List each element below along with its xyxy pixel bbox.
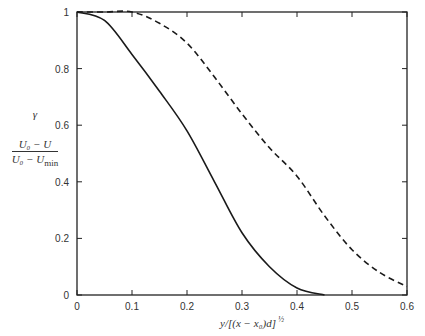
- x-tick-label: 0.5: [345, 301, 359, 312]
- y-label-fraction: U₀ − U U₀ − Umin: [12, 138, 59, 168]
- x-tick-label: 0.1: [125, 301, 139, 312]
- x-tick-label: 0.3: [235, 301, 249, 312]
- x-tick-label: 0.4: [290, 301, 304, 312]
- y-label-gamma: γ: [4, 108, 66, 120]
- y-tick-label: 0: [63, 290, 69, 301]
- y-tick-label: 0.4: [55, 177, 69, 188]
- fraction-denominator: U₀ − Umin: [12, 152, 59, 168]
- plot-frame: [77, 12, 407, 295]
- denominator-main: U₀ − U: [12, 153, 45, 165]
- x-tick-label: 0.2: [180, 301, 194, 312]
- x-tick-label: 0.6: [400, 301, 414, 312]
- x-tick-label: 0: [74, 301, 80, 312]
- y-tick-label: 0.8: [55, 64, 69, 75]
- y-tick-label: 1: [63, 7, 69, 18]
- fraction-numerator: U₀ − U: [12, 138, 59, 152]
- y-axis-label: γ U₀ − U U₀ − Umin: [4, 108, 66, 168]
- solid-curve-gamma: [77, 12, 325, 295]
- denominator-sub: min: [44, 158, 58, 168]
- x-axis-label: y/[(x − x₀)d] ½: [219, 315, 284, 330]
- dashed-curve-velocity: [77, 11, 407, 286]
- y-tick-label: 0.2: [55, 233, 69, 244]
